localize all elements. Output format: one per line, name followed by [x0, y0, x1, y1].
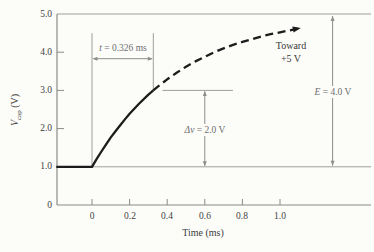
ylabel-symbol: V: [9, 120, 20, 126]
x-tick-label-02: 0.2: [124, 211, 136, 222]
y-tick-label-3: 3.0: [28, 85, 52, 96]
delta-v-bottom-head: [203, 161, 207, 166]
y-axis-title: Vcap (V): [9, 94, 23, 126]
source-e-bottom-head: [331, 161, 335, 166]
x-tick-label-06: 0.6: [199, 211, 211, 222]
y-tick-label-0: 0: [28, 200, 52, 211]
capacitor-charging-figure: 5.0 4.0 3.0 2.0 1.0 0 0 0.2 0.4 0.6 0.8 …: [0, 0, 374, 252]
x-tick-label-08: 0.8: [236, 211, 248, 222]
time-interval-label: t = 0.326 ms: [99, 42, 147, 54]
x-axis-title: Time (ms): [182, 227, 224, 238]
curve-v-cap-measured: [56, 90, 153, 166]
curve-arrowhead: [292, 27, 301, 33]
x-tick-label-0: 0: [90, 211, 95, 222]
ylabel-unit: (V): [9, 94, 20, 110]
y-tick-label-1: 1.0: [28, 161, 52, 172]
y-tick-label-2: 2.0: [28, 123, 52, 134]
ylabel-subscript: cap: [15, 110, 23, 120]
toward-5v-label: Toward +5 V: [276, 39, 306, 65]
source-e-top-head: [331, 16, 335, 21]
y-tick-label-5: 5.0: [28, 9, 52, 20]
delta-v-top-head: [203, 91, 207, 96]
x-tick-label-10: 1.0: [274, 211, 286, 222]
x-tick-label-04: 0.4: [161, 211, 173, 222]
source-voltage-label: E = 4.0 V: [312, 86, 355, 98]
time-arrow-right-head: [148, 57, 153, 61]
delta-v-label: Δv = 2.0 V: [182, 124, 229, 136]
y-tick-label-4: 4.0: [28, 47, 52, 58]
time-arrow-left-head: [93, 57, 98, 61]
